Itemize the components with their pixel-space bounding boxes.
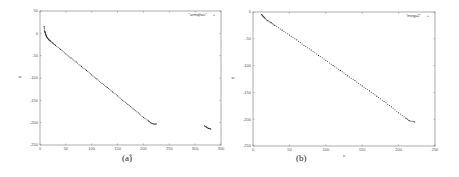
y-tick-label: -150 (30, 98, 39, 103)
y-tick-label: -200 (243, 117, 252, 122)
x-tick-label: 200 (395, 147, 402, 152)
y-tick-label: -50 (245, 36, 252, 41)
data-point (65, 53, 66, 54)
data-point (340, 70, 341, 71)
x-tick-label: 200 (140, 146, 147, 151)
scatter-plot-b: 0501001502002500-50-100-150-200-250nw"me… (230, 0, 459, 177)
data-point (55, 45, 56, 46)
x-tick-label: 50 (287, 147, 292, 152)
scatter-plot-a: 050100150200250300350500-50-100-150-200-… (0, 0, 230, 177)
data-point (143, 117, 144, 118)
legend-label: "mega2" (406, 13, 422, 18)
legend-label: "armqhac" (189, 12, 208, 17)
data-point (156, 123, 157, 124)
data-point (282, 30, 283, 31)
data-point (101, 83, 102, 84)
data-point (138, 112, 139, 113)
y-tick-label: -100 (243, 63, 252, 68)
data-point (44, 26, 45, 27)
data-point (112, 91, 113, 92)
x-tick-label: 150 (359, 147, 366, 152)
data-point (376, 96, 377, 97)
data-point (122, 100, 123, 101)
data-point (86, 70, 87, 71)
data-point (347, 75, 348, 76)
x-tick-label: 150 (114, 146, 121, 151)
caption-a: (a) (122, 153, 132, 163)
y-axis-label: w (19, 74, 22, 79)
data-point (127, 104, 128, 105)
data-point (70, 57, 71, 58)
y-tick-label: -250 (243, 143, 252, 148)
data-point (391, 106, 392, 107)
y-tick-label: -200 (30, 120, 39, 125)
y-tick-label: -50 (32, 53, 39, 58)
data-point (325, 60, 326, 61)
data-point (117, 95, 118, 96)
data-point (76, 61, 77, 62)
y-axis-label: w (232, 75, 235, 80)
x-tick-label: 100 (88, 146, 95, 151)
legend-marker: + (427, 13, 430, 18)
data-point (267, 20, 268, 21)
data-point (354, 80, 355, 81)
plot-frame (40, 11, 221, 145)
data-point (409, 120, 410, 121)
y-tick-label: -100 (30, 75, 39, 80)
x-tick-label: 250 (432, 147, 439, 152)
data-point (362, 85, 363, 86)
data-point (296, 39, 297, 40)
chart-panel-a: 050100150200250300350500-50-100-150-200-… (0, 0, 230, 177)
data-point (414, 121, 415, 122)
data-point (60, 49, 61, 50)
data-point (96, 78, 97, 79)
plot-frame (253, 12, 435, 146)
data-point (303, 45, 304, 46)
y-tick-label: 0 (249, 9, 252, 14)
x-tick-label: 50 (64, 146, 69, 151)
x-tick-label: 350 (218, 146, 225, 151)
data-point (369, 90, 370, 91)
chart-panel-b: 0501001502002500-50-100-150-200-250nw"me… (230, 0, 459, 177)
data-point (318, 55, 319, 56)
y-tick-label: 0 (36, 31, 39, 36)
data-point (383, 101, 384, 102)
y-tick-label: -250 (30, 142, 39, 147)
legend-marker: + (213, 12, 216, 17)
data-point (398, 112, 399, 113)
data-point (311, 49, 312, 50)
data-point (210, 128, 211, 129)
x-axis-label: n (343, 153, 345, 158)
x-tick-label: 250 (166, 146, 173, 151)
y-tick-label: -150 (243, 90, 252, 95)
data-point (91, 74, 92, 75)
x-tick-label: 0 (39, 146, 42, 151)
x-tick-label: 300 (192, 146, 199, 151)
y-tick-label: 50 (34, 8, 39, 13)
data-point (274, 25, 275, 26)
data-point (289, 34, 290, 35)
data-point (271, 22, 272, 23)
data-point (405, 118, 406, 119)
data-point (332, 65, 333, 66)
data-point (81, 66, 82, 67)
x-tick-label: 0 (252, 147, 255, 152)
data-point (107, 87, 108, 88)
x-tick-label: 100 (322, 147, 329, 152)
caption-b: (b) (296, 153, 307, 163)
data-point (132, 108, 133, 109)
